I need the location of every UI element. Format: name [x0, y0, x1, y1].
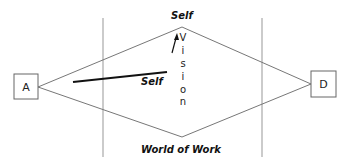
vision-letter: V [180, 32, 187, 43]
vision-letter: n [180, 96, 186, 107]
vision-arrow-shaft [172, 38, 176, 53]
top-self-label: Self [171, 10, 194, 21]
diamond-bottom-edge [38, 84, 311, 137]
inner-self-label: Self [141, 76, 164, 87]
diamond-top-edge [38, 27, 311, 87]
node-a-label: A [22, 81, 30, 94]
node-d: D [311, 71, 336, 97]
node-a: A [14, 74, 38, 99]
vision-label: V i s i o n [180, 32, 187, 107]
vision-letter: o [180, 84, 186, 95]
vision-letter: i [182, 71, 185, 82]
world-of-work-label: World of Work [141, 144, 222, 155]
vision-letter: i [182, 45, 185, 56]
vision-arrow-head-icon [174, 33, 179, 40]
diagram-canvas: A D Self Self World of Work V i s i o n [0, 0, 347, 157]
vision-letter: s [180, 58, 185, 69]
node-d-label: D [319, 78, 327, 91]
